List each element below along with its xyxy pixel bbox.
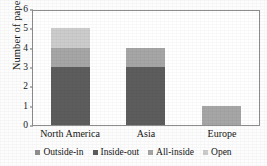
x-axis-tick-label: Europe xyxy=(184,128,260,139)
legend-label: All-inside xyxy=(156,147,194,157)
y-axis-tick-labels: 0123456 xyxy=(14,10,28,126)
y-axis-tick-label: 3 xyxy=(14,63,28,73)
bar-slot xyxy=(33,11,108,125)
legend-label: Outside-in xyxy=(43,147,83,157)
legend-label: Open xyxy=(211,147,232,157)
x-axis-tick-labels: North AmericaAsiaEurope xyxy=(32,128,260,139)
y-axis-tick-label: 6 xyxy=(14,5,28,15)
legend-item[interactable]: Open xyxy=(203,147,232,157)
bar-slot xyxy=(108,11,183,125)
chart-legend: Outside-inInside-outAll-insideOpen xyxy=(0,147,267,157)
bar-segment[interactable] xyxy=(51,28,90,47)
legend-swatch-icon xyxy=(93,150,98,155)
x-axis-tick-label: Asia xyxy=(108,128,184,139)
y-axis-tick-label: 0 xyxy=(14,121,28,131)
bar-segment[interactable] xyxy=(51,67,90,125)
bar-segment[interactable] xyxy=(202,106,241,125)
y-axis-tick-label: 5 xyxy=(14,25,28,35)
legend-label: Inside-out xyxy=(101,147,140,157)
bar-slot xyxy=(184,11,259,125)
bar-segment[interactable] xyxy=(126,48,165,67)
y-axis-tick-label: 4 xyxy=(14,44,28,54)
stacked-bar[interactable] xyxy=(202,106,241,125)
bar-series-group xyxy=(33,11,259,125)
plot-area xyxy=(32,10,260,126)
legend-item[interactable]: Inside-out xyxy=(93,147,140,157)
legend-swatch-icon xyxy=(148,150,153,155)
stacked-bar[interactable] xyxy=(51,28,90,125)
legend-swatch-icon xyxy=(203,150,208,155)
chart-figure: Number of papers 0123456 North AmericaAs… xyxy=(0,0,267,166)
legend-item[interactable]: All-inside xyxy=(148,147,194,157)
y-axis-tick-label: 2 xyxy=(14,83,28,93)
legend-item[interactable]: Outside-in xyxy=(35,147,83,157)
y-axis-tick-label: 1 xyxy=(14,102,28,112)
bar-segment[interactable] xyxy=(126,67,165,125)
legend-swatch-icon xyxy=(35,150,40,155)
bar-segment[interactable] xyxy=(51,48,90,67)
x-axis-tick-label: North America xyxy=(32,128,108,139)
stacked-bar[interactable] xyxy=(126,48,165,125)
